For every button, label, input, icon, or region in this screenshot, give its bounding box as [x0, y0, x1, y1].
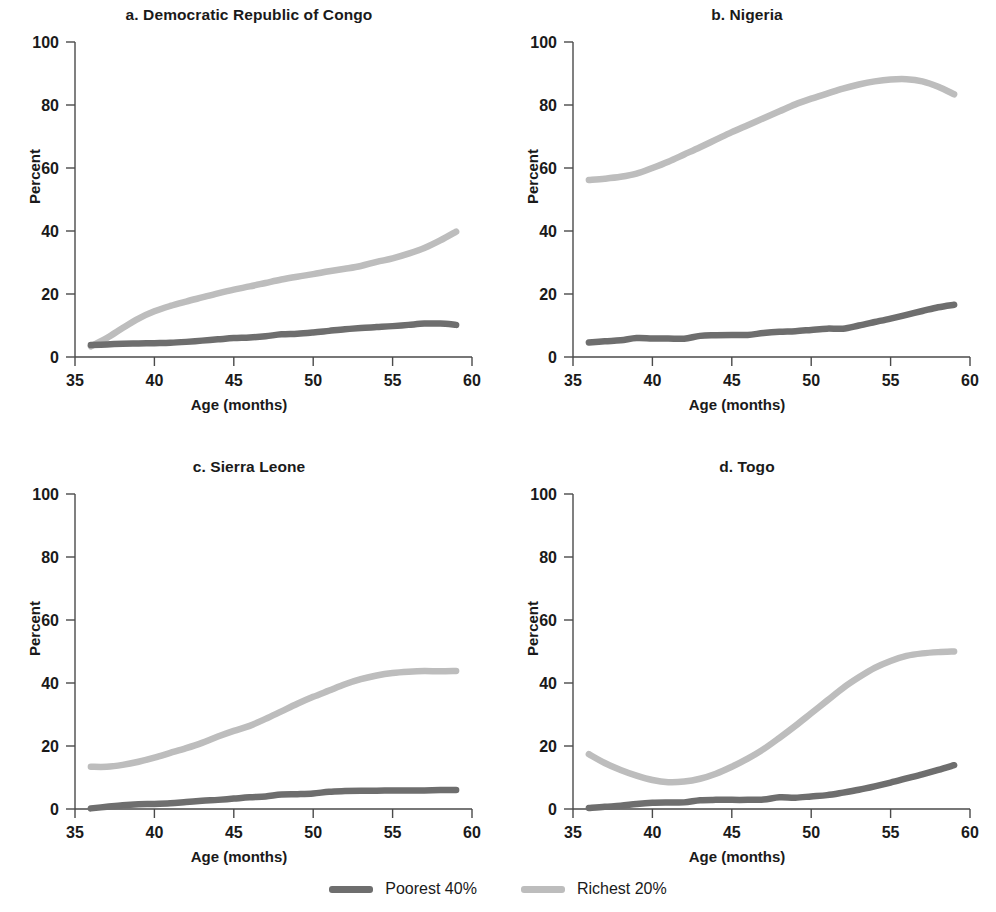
panel-a-plot: 354045505560020406080100 [0, 26, 498, 386]
svg-text:35: 35 [66, 824, 84, 838]
svg-text:50: 50 [304, 372, 322, 386]
svg-text:45: 45 [723, 824, 741, 838]
panel-d-plot: 354045505560020406080100 [498, 478, 996, 838]
svg-text:0: 0 [50, 349, 59, 366]
svg-text:20: 20 [41, 738, 59, 755]
svg-text:40: 40 [644, 372, 662, 386]
panel-c-x-axis-label: Age (months) [0, 848, 478, 865]
panel-a-title: a. Democratic Republic of Congo [0, 6, 498, 24]
svg-text:80: 80 [539, 549, 557, 566]
svg-text:40: 40 [41, 675, 59, 692]
svg-text:60: 60 [539, 612, 557, 629]
svg-text:50: 50 [802, 372, 820, 386]
svg-text:100: 100 [530, 34, 557, 51]
svg-text:50: 50 [304, 824, 322, 838]
panel-c-title: c. Sierra Leone [0, 458, 498, 476]
svg-text:20: 20 [539, 738, 557, 755]
svg-text:0: 0 [50, 801, 59, 818]
svg-text:60: 60 [961, 824, 979, 838]
svg-text:40: 40 [146, 372, 164, 386]
svg-text:60: 60 [41, 612, 59, 629]
svg-text:55: 55 [384, 824, 402, 838]
panel-c: c. Sierra Leone Percent 3540455055600204… [0, 452, 498, 870]
svg-text:35: 35 [66, 372, 84, 386]
chart-grid: a. Democratic Republic of Congo Percent … [0, 0, 996, 912]
panel-c-plot: 354045505560020406080100 [0, 478, 498, 838]
svg-text:40: 40 [644, 824, 662, 838]
legend-line-swatch-richest [521, 886, 565, 893]
svg-text:40: 40 [41, 223, 59, 240]
svg-text:80: 80 [41, 549, 59, 566]
legend-label-richest: Richest 20% [577, 880, 667, 898]
svg-text:60: 60 [961, 372, 979, 386]
panel-a: a. Democratic Republic of Congo Percent … [0, 0, 498, 452]
svg-text:40: 40 [146, 824, 164, 838]
svg-text:40: 40 [539, 675, 557, 692]
chart-legend: Poorest 40% Richest 20% [0, 880, 996, 898]
legend-item-richest: Richest 20% [521, 880, 667, 898]
svg-text:45: 45 [225, 824, 243, 838]
svg-text:55: 55 [882, 372, 900, 386]
svg-text:60: 60 [463, 824, 481, 838]
svg-text:20: 20 [539, 286, 557, 303]
legend-label-poorest: Poorest 40% [385, 880, 477, 898]
legend-item-poorest: Poorest 40% [329, 880, 477, 898]
svg-text:0: 0 [548, 349, 557, 366]
panel-b-title: b. Nigeria [498, 6, 996, 24]
panel-b-plot: 354045505560020406080100 [498, 26, 996, 386]
svg-text:80: 80 [539, 97, 557, 114]
panel-b: b. Nigeria Percent 354045505560020406080… [498, 0, 996, 452]
svg-text:55: 55 [384, 372, 402, 386]
svg-text:60: 60 [463, 372, 481, 386]
panel-a-x-axis-label: Age (months) [0, 396, 478, 413]
svg-text:35: 35 [564, 372, 582, 386]
legend-line-swatch-poorest [329, 886, 373, 893]
svg-text:60: 60 [41, 160, 59, 177]
svg-text:35: 35 [564, 824, 582, 838]
svg-text:45: 45 [723, 372, 741, 386]
svg-text:100: 100 [32, 34, 59, 51]
svg-text:55: 55 [882, 824, 900, 838]
svg-text:100: 100 [530, 486, 557, 503]
svg-text:40: 40 [539, 223, 557, 240]
svg-text:20: 20 [41, 286, 59, 303]
svg-text:45: 45 [225, 372, 243, 386]
svg-text:0: 0 [548, 801, 557, 818]
panel-d: d. Togo Percent 354045505560020406080100… [498, 452, 996, 870]
svg-text:80: 80 [41, 97, 59, 114]
svg-text:50: 50 [802, 824, 820, 838]
panel-d-x-axis-label: Age (months) [498, 848, 976, 865]
panel-d-title: d. Togo [498, 458, 996, 476]
panel-b-x-axis-label: Age (months) [498, 396, 976, 413]
svg-text:100: 100 [32, 486, 59, 503]
svg-text:60: 60 [539, 160, 557, 177]
